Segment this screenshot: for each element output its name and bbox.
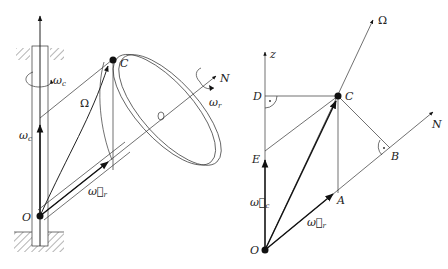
shaft-rotation-arrow-icon [26,72,51,87]
lower-bearing-hatch [14,232,64,252]
label-omega-c-side: ωc [19,129,32,143]
label-omega-r-vector: ω⃗r [307,216,327,230]
axis-to-C-line [40,60,112,118]
disk-edge-curve [100,62,112,160]
point-C [110,57,117,64]
right-angle-B [378,140,382,155]
label-E: E [251,153,260,166]
label-omega-c-vector: ω⃗c [250,196,270,210]
point-O [262,247,269,254]
label-B: B [390,150,399,163]
right-angle-D [265,96,277,108]
label-Omega: Ω [378,14,387,27]
disk-rotation-arrow-icon [196,68,214,89]
upper-bearing-left-hatch [16,48,30,60]
label-omega-r-disk: ωr [209,96,222,110]
point-C [335,93,342,100]
label-C: C [120,57,129,70]
kinematics-diagram: C O N Ω ωc ωc ωr ω⃗r [0,0,448,269]
upper-bearing-right-hatch [50,48,64,60]
EC-line [265,96,338,151]
disk-center-mark [158,112,164,120]
label-omega-c-top: ωc [53,74,66,88]
label-C: C [345,90,354,103]
label-z: z [269,48,276,61]
label-O: O [250,244,259,257]
label-N: N [219,72,230,85]
axle-edge [44,152,130,220]
label-D: D [252,90,262,103]
point-O [37,213,44,220]
CB-line [338,96,390,148]
label-omega-r-vector: ω⃗r [88,185,108,199]
axle-edge [38,142,125,210]
label-Omega: Ω [80,97,89,110]
label-A: A [336,194,345,207]
label-N: N [431,118,442,131]
right-figure: z D C Ω N B E A O ω⃗c ω⃗r [250,14,442,257]
left-figure: C O N Ω ωc ωc ωr ω⃗r [14,16,238,252]
label-O: O [22,211,31,224]
